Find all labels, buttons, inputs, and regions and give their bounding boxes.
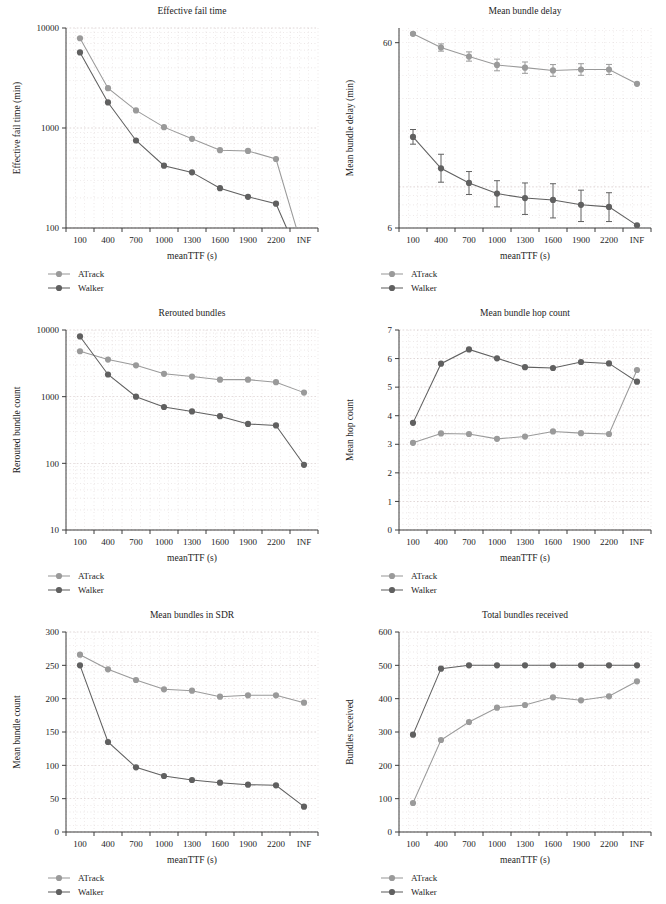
data-point [301, 265, 307, 271]
legend: ATrackWalker [381, 571, 438, 595]
series-atrack [410, 31, 640, 87]
y-tick-label: 1 [388, 497, 393, 507]
data-point [189, 169, 195, 175]
legend-label: ATrack [78, 269, 105, 279]
legend-label: Walker [78, 585, 104, 595]
legend-item-walker[interactable]: Walker [381, 887, 437, 897]
data-point [77, 49, 83, 55]
data-point [634, 678, 640, 684]
y-tick-label: 3 [388, 439, 393, 449]
data-point [438, 430, 444, 436]
data-point [550, 428, 556, 434]
legend-label: Walker [78, 887, 104, 897]
x-tick-label: INF [297, 839, 312, 849]
x-tick-label: INF [630, 839, 645, 849]
data-point [578, 66, 584, 72]
legend-item-walker[interactable]: Walker [48, 585, 104, 595]
legend-item-walker[interactable]: Walker [48, 283, 104, 293]
y-tick-label: 300 [46, 627, 60, 637]
data-point [217, 185, 223, 191]
x-tick-label: 400 [434, 537, 448, 547]
chart-title: Mean bundle delay [489, 6, 562, 16]
x-tick-label: 1000 [488, 235, 507, 245]
data-point [438, 737, 444, 743]
y-tick-label: 5 [388, 382, 393, 392]
data-point [466, 662, 472, 668]
x-tick-label: 1900 [572, 537, 591, 547]
legend-item-atrack[interactable]: ATrack [381, 571, 438, 581]
legend-label: Walker [411, 887, 437, 897]
grid-lines [66, 28, 318, 228]
data-point [522, 364, 528, 370]
series-walker [77, 333, 307, 468]
legend-marker [389, 271, 395, 277]
data-point [133, 137, 139, 143]
data-point [550, 67, 556, 73]
data-point [77, 35, 83, 41]
data-point [161, 371, 167, 377]
series-atrack [77, 348, 307, 396]
series-line [413, 681, 637, 803]
legend: ATrackWalker [48, 269, 105, 293]
y-tick-label: 150 [46, 727, 60, 737]
data-point [217, 377, 223, 383]
x-tick-label: 1600 [544, 537, 563, 547]
data-point [438, 165, 444, 171]
data-point [522, 702, 528, 708]
data-point [410, 800, 416, 806]
data-point [189, 688, 195, 694]
data-point [217, 694, 223, 700]
data-point [634, 662, 640, 668]
x-tick-label: 100 [73, 839, 87, 849]
x-tick-label: 1000 [155, 537, 174, 547]
x-tick-label: 1600 [544, 839, 563, 849]
data-point [161, 686, 167, 692]
x-tick-label: 1000 [488, 839, 507, 849]
data-point [410, 732, 416, 738]
y-tick-label: 0 [388, 525, 393, 535]
chart-panel-total-bundles-received: 0100200300400500600100400700100013001600… [333, 604, 666, 904]
data-point [245, 421, 251, 427]
data-point [578, 202, 584, 208]
legend-item-atrack[interactable]: ATrack [381, 269, 438, 279]
legend-item-atrack[interactable]: ATrack [381, 873, 438, 883]
y-tick-label: 1000 [41, 392, 60, 402]
legend-marker [56, 587, 62, 593]
legend-item-walker[interactable]: Walker [381, 283, 437, 293]
x-tick-label: 700 [129, 235, 143, 245]
x-tick-label: 1600 [211, 537, 230, 547]
legend-item-atrack[interactable]: ATrack [48, 571, 105, 581]
legend-item-walker[interactable]: Walker [48, 887, 104, 897]
x-tick-label: 1300 [516, 839, 535, 849]
y-tick-label: 60 [383, 38, 393, 48]
y-tick-label: 10000 [37, 23, 60, 33]
legend-marker [389, 285, 395, 291]
y-tick-label: 0 [388, 827, 393, 837]
x-tick-label: 2200 [600, 537, 619, 547]
data-point [578, 662, 584, 668]
axes [399, 330, 651, 530]
data-point [273, 379, 279, 385]
axes [66, 330, 318, 530]
x-tick-label: 1900 [572, 235, 591, 245]
data-point [410, 440, 416, 446]
series-walker [410, 662, 640, 738]
chart-panel-mean-bundle-delay: 66010040070010001300160019002200INFMean … [333, 0, 666, 302]
legend-item-atrack[interactable]: ATrack [48, 269, 105, 279]
legend-item-walker[interactable]: Walker [381, 585, 437, 595]
legend-item-atrack[interactable]: ATrack [48, 873, 105, 883]
x-tick-label: 1600 [544, 235, 563, 245]
data-point [301, 251, 307, 257]
data-point [133, 677, 139, 683]
legend-marker [389, 573, 395, 579]
x-axis-label: meanTTF (s) [500, 855, 550, 866]
data-point [217, 147, 223, 153]
data-point [161, 124, 167, 130]
x-tick-label: 700 [129, 839, 143, 849]
x-tick-label: 1000 [155, 235, 174, 245]
data-point [217, 780, 223, 786]
x-axis-label: meanTTF (s) [167, 553, 217, 564]
x-tick-label: 700 [462, 235, 476, 245]
legend-label: ATrack [411, 269, 438, 279]
data-point [273, 782, 279, 788]
